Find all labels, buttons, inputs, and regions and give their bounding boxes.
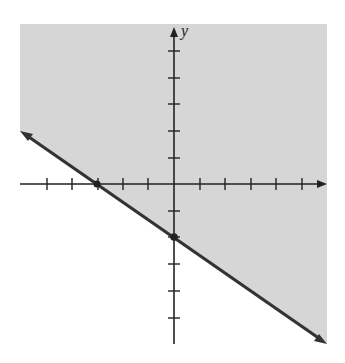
x-intercept-point	[94, 181, 101, 188]
y-intercept-point	[170, 233, 178, 241]
inequality-graph: y	[0, 0, 345, 363]
y-axis-label: y	[179, 22, 189, 40]
